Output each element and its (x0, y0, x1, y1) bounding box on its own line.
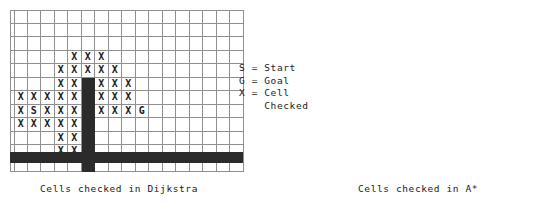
empty-cell (109, 37, 123, 51)
empty-cell (149, 51, 163, 65)
empty-cell (122, 132, 136, 146)
empty-cell (28, 132, 42, 146)
empty-cell (203, 91, 217, 105)
empty-cell (109, 51, 123, 65)
empty-cell (55, 10, 69, 24)
empty-cell (176, 118, 190, 132)
checked-cell: X (68, 118, 82, 132)
checked-cell: X (122, 91, 136, 105)
empty-cell (41, 78, 55, 92)
empty-cell (176, 78, 190, 92)
checked-cell: X (109, 78, 123, 92)
empty-cell (230, 10, 244, 24)
empty-cell (203, 132, 217, 146)
empty-cell (28, 10, 42, 24)
checked-cell: X (82, 64, 96, 78)
empty-cell (122, 51, 136, 65)
empty-cell (14, 10, 28, 24)
empty-cell (28, 51, 42, 65)
empty-cell (68, 10, 82, 24)
checked-cell: X (28, 118, 42, 132)
empty-cell (68, 24, 82, 38)
checked-cell: X (95, 51, 109, 65)
empty-cell (190, 10, 204, 24)
empty-cell (190, 51, 204, 65)
empty-cell (149, 64, 163, 78)
checked-cell: X (68, 78, 82, 92)
legend-line-2: X = Cell (239, 87, 309, 100)
empty-cell (14, 78, 28, 92)
empty-cell (203, 78, 217, 92)
empty-cell (203, 118, 217, 132)
empty-cell (95, 10, 109, 24)
empty-cell (149, 91, 163, 105)
checked-cell: X (14, 105, 28, 119)
empty-cell (149, 78, 163, 92)
empty-cell (190, 91, 204, 105)
checked-cell: X (41, 118, 55, 132)
empty-cell (203, 51, 217, 65)
empty-cell (95, 37, 109, 51)
empty-cell (149, 24, 163, 38)
empty-cell (217, 51, 231, 65)
empty-cell (136, 91, 150, 105)
empty-cell (190, 132, 204, 146)
empty-cell (230, 118, 244, 132)
empty-cell (109, 118, 123, 132)
empty-cell (217, 118, 231, 132)
empty-cell (190, 78, 204, 92)
checked-cell: X (109, 64, 123, 78)
checked-cell: X (68, 64, 82, 78)
empty-cell (109, 132, 123, 146)
empty-cell (136, 37, 150, 51)
checked-cell: X (41, 105, 55, 119)
wall-cell (82, 91, 96, 105)
empty-cell (217, 105, 231, 119)
empty-cell (41, 51, 55, 65)
empty-cell (14, 51, 28, 65)
empty-cell (95, 24, 109, 38)
checked-cell: X (14, 118, 28, 132)
caption-astar: Cells checked in A* (358, 183, 478, 194)
empty-cell (149, 105, 163, 119)
empty-cell (55, 37, 69, 51)
empty-cell (41, 10, 55, 24)
empty-cell (14, 37, 28, 51)
empty-cell (176, 91, 190, 105)
checked-cell: X (55, 132, 69, 146)
empty-cell (55, 51, 69, 65)
empty-cell (149, 118, 163, 132)
legend-line-0: S = Start (239, 62, 309, 75)
empty-cell (122, 64, 136, 78)
empty-cell (41, 64, 55, 78)
empty-cell (41, 37, 55, 51)
empty-cell (28, 37, 42, 51)
empty-cell (217, 91, 231, 105)
empty-cell (217, 78, 231, 92)
checked-cell: X (14, 91, 28, 105)
empty-cell (41, 24, 55, 38)
empty-cell (163, 64, 177, 78)
empty-cell (136, 24, 150, 38)
empty-cell (190, 118, 204, 132)
empty-cell (122, 24, 136, 38)
checked-cell: X (55, 91, 69, 105)
checked-cell: X (109, 105, 123, 119)
checked-cell: X (41, 91, 55, 105)
empty-cell (190, 37, 204, 51)
empty-cell (217, 24, 231, 38)
empty-cell (163, 24, 177, 38)
wall-cell (82, 105, 96, 119)
empty-cell (203, 24, 217, 38)
empty-cell (163, 10, 177, 24)
empty-cell (163, 105, 177, 119)
empty-cell (136, 78, 150, 92)
empty-cell (149, 37, 163, 51)
empty-cell (176, 64, 190, 78)
empty-cell (163, 91, 177, 105)
empty-cell (28, 78, 42, 92)
empty-cell (109, 24, 123, 38)
empty-cell (82, 37, 96, 51)
wall-cell (82, 132, 96, 146)
wall-cell (82, 78, 96, 92)
